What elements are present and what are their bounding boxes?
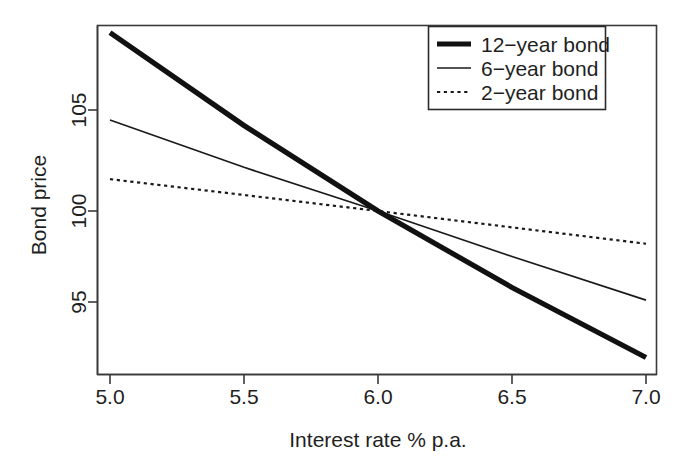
legend[interactable]: 12−year bond 6−year bond 2−year bond <box>429 27 611 110</box>
y-tick-label-95: 95 <box>67 290 90 313</box>
y-axis: 105 100 95 Bond price <box>27 26 98 375</box>
x-tick-label-6-5: 6.5 <box>497 385 526 408</box>
bond-price-chart-figure: 105 100 95 Bond price 5.0 5.5 6.0 6.5 7.… <box>0 0 684 466</box>
x-tick-label-5-5: 5.5 <box>229 385 258 408</box>
y-tick-label-105: 105 <box>67 92 90 127</box>
x-tick-label-5-0: 5.0 <box>95 385 124 408</box>
x-tick-label-7-0: 7.0 <box>631 385 660 408</box>
chart-canvas: 105 100 95 Bond price 5.0 5.5 6.0 6.5 7.… <box>0 0 684 466</box>
legend-label-6-year-bond: 6−year bond <box>481 57 598 80</box>
x-tick-label-6-0: 6.0 <box>363 385 392 408</box>
y-tick-label-100: 100 <box>67 193 90 228</box>
x-axis-title: Interest rate % p.a. <box>289 428 466 451</box>
legend-label-2-year-bond: 2−year bond <box>481 81 598 104</box>
x-axis: 5.0 5.5 6.0 6.5 7.0 Interest rate % p.a. <box>95 375 660 452</box>
legend-label-12-year-bond: 12−year bond <box>481 33 610 56</box>
y-axis-title: Bond price <box>27 155 50 255</box>
